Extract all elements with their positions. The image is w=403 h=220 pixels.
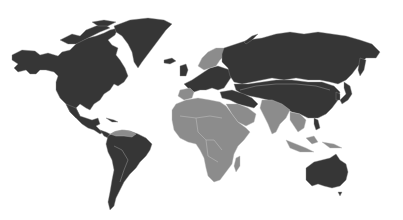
region-philippines[interactable] [314, 118, 320, 130]
region-tasmania[interactable] [338, 192, 342, 196]
region-greenland[interactable] [114, 18, 172, 68]
world-map [0, 0, 403, 220]
region-europe[interactable] [184, 66, 232, 92]
region-uk[interactable] [180, 64, 188, 76]
region-australia[interactable] [306, 154, 348, 188]
region-iberia[interactable] [178, 88, 194, 100]
region-arctic-islands-2[interactable] [92, 20, 116, 26]
region-russia[interactable] [222, 32, 380, 84]
region-south-america[interactable] [106, 130, 152, 210]
region-madagascar[interactable] [234, 156, 240, 172]
region-caribbean[interactable] [106, 118, 118, 122]
region-japan[interactable] [340, 82, 352, 104]
region-mexico[interactable] [66, 104, 104, 134]
region-indonesia[interactable] [286, 136, 342, 152]
region-iceland[interactable] [164, 58, 176, 64]
